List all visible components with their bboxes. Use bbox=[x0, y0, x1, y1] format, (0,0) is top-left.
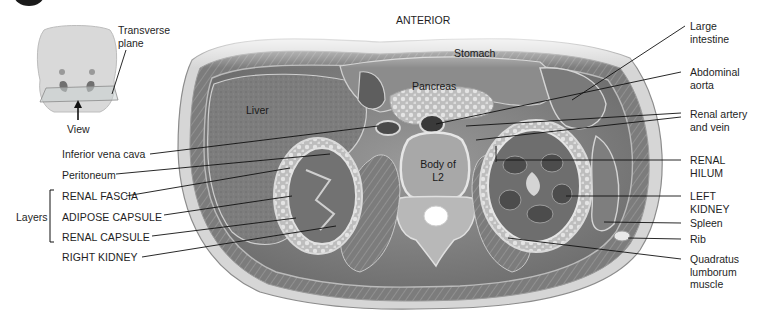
label-large-intestine-line2: intestine bbox=[690, 33, 729, 46]
label-quadratus-line1: Quadratus bbox=[690, 253, 739, 266]
label-spleen: Spleen bbox=[690, 217, 723, 230]
label-abdominal-aorta-line2: aorta bbox=[690, 79, 740, 92]
label-left-kidney-line2: KIDNEY bbox=[690, 203, 730, 216]
rib bbox=[614, 231, 630, 241]
label-renal-artery-vein-line1: Renal artery bbox=[690, 108, 747, 121]
vertebra-label-line1: Body of bbox=[413, 158, 463, 171]
label-right-kidney: RIGHT KIDNEY bbox=[62, 251, 138, 264]
label-renal-artery-vein-line2: and vein bbox=[690, 121, 747, 134]
label-quadratus-line3: muscle bbox=[690, 278, 739, 291]
pancreas-label: Pancreas bbox=[412, 80, 456, 93]
left-kidney bbox=[480, 120, 592, 252]
transverse-plane bbox=[40, 86, 118, 102]
label-inferior-vena-cava: Inferior vena cava bbox=[62, 148, 145, 161]
vertebra-label: Body of L2 bbox=[413, 158, 463, 183]
label-renal-hilum: RENAL HILUM bbox=[690, 154, 726, 179]
label-left-kidney-line1: LEFT bbox=[690, 190, 730, 203]
label-renal-capsule: RENAL CAPSULE bbox=[62, 231, 150, 244]
transverse-plane-label-line2: plane bbox=[118, 37, 170, 50]
label-large-intestine: Large intestine bbox=[690, 20, 729, 45]
label-quadratus-line2: lumborum bbox=[690, 266, 739, 279]
label-quadratus-lumborum: Quadratus lumborum muscle bbox=[690, 253, 739, 291]
label-layers: Layers bbox=[16, 211, 48, 224]
label-rib: Rib bbox=[690, 233, 706, 246]
transverse-plane-label-line1: Transverse bbox=[118, 24, 170, 37]
label-renal-artery-vein: Renal artery and vein bbox=[690, 108, 747, 133]
layers-bracket bbox=[50, 190, 54, 242]
label-large-intestine-line1: Large bbox=[690, 20, 729, 33]
label-renal-hilum-line2: HILUM bbox=[690, 167, 726, 180]
label-renal-fascia: RENAL FASCIA bbox=[62, 190, 138, 203]
view-label: View bbox=[67, 123, 90, 136]
spinal-canal bbox=[424, 206, 448, 226]
anterior-label: ANTERIOR bbox=[396, 14, 450, 27]
label-renal-hilum-line1: RENAL bbox=[690, 154, 726, 167]
label-left-kidney: LEFT KIDNEY bbox=[690, 190, 730, 215]
label-abdominal-aorta-line1: Abdominal bbox=[690, 66, 740, 79]
label-peritoneum: Peritoneum bbox=[62, 169, 116, 182]
abdomen-cross-section-illustration bbox=[0, 0, 760, 326]
vertebra-label-line2: L2 bbox=[413, 171, 463, 184]
inferior-vena-cava bbox=[376, 121, 400, 135]
inset-torso-figure bbox=[37, 26, 126, 121]
label-abdominal-aorta: Abdominal aorta bbox=[690, 66, 740, 91]
stomach-label: Stomach bbox=[454, 47, 495, 60]
label-adipose-capsule: ADIPOSE CAPSULE bbox=[62, 211, 162, 224]
abdominal-aorta bbox=[420, 115, 444, 133]
transverse-plane-label: Transverse plane bbox=[118, 24, 170, 49]
liver-label: Liver bbox=[246, 104, 269, 117]
